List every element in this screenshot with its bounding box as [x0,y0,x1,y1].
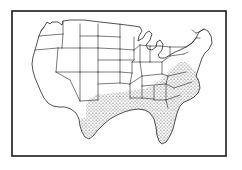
figure-container [0,0,242,170]
us-map-figure [0,0,242,170]
